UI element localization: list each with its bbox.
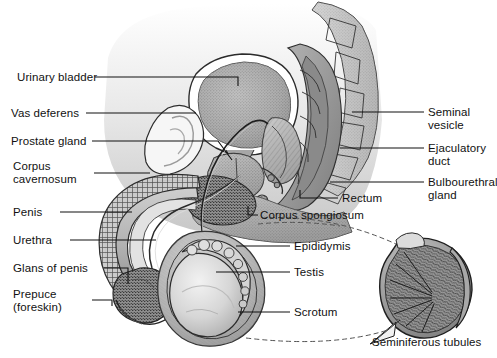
label-urethra: Urethra: [13, 234, 52, 247]
label-epididymis: Epididymis: [294, 240, 351, 253]
anatomical-diagram: Urinary bladder Vas deferens Prostate gl…: [0, 0, 497, 358]
label-urinary-bladder: Urinary bladder: [17, 71, 97, 84]
label-rectum: Rectum: [342, 192, 382, 205]
label-bulbourethral-2: gland: [428, 189, 457, 202]
leader-prepuce: [92, 300, 112, 306]
label-penis: Penis: [13, 206, 42, 219]
label-corpus-cavernosum-1: Corpus: [13, 160, 51, 173]
label-vas-deferens: Vas deferens: [11, 107, 79, 120]
label-prepuce-1: Prepuce: [13, 288, 57, 301]
label-ejaculatory-duct-2: duct: [428, 155, 450, 168]
label-seminal-vesicle-2: vesicle: [428, 119, 464, 132]
label-prostate-gland: Prostate gland: [11, 135, 87, 148]
label-glans-of-penis: Glans of penis: [13, 262, 88, 275]
testis-inset: [370, 233, 472, 344]
label-ejaculatory-duct-1: Ejaculatory: [428, 142, 486, 155]
label-bulbourethral-1: Bulbourethral: [428, 176, 497, 189]
label-corpus-cavernosum-2: cavernosum: [13, 173, 77, 186]
label-corpus-spongiosum: Corpus spongiosum: [260, 209, 364, 222]
label-seminal-vesicle-1: Seminal: [428, 106, 470, 119]
label-testis: Testis: [294, 266, 324, 279]
label-scrotum: Scrotum: [294, 306, 338, 319]
label-seminiferous-tubules: Seminiferous tubules: [372, 336, 481, 349]
label-prepuce-2: (foreskin): [13, 301, 62, 314]
